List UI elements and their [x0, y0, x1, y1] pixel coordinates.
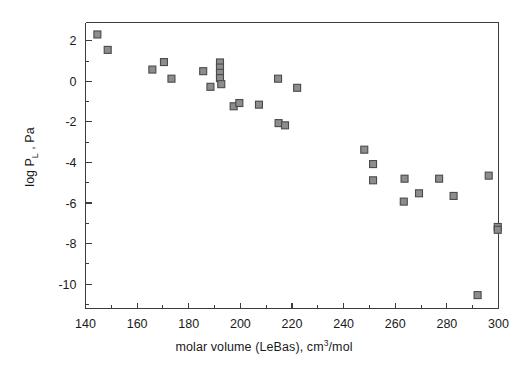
data-point-marker	[415, 190, 422, 197]
data-point-marker	[370, 177, 377, 184]
y-tick-label: 2	[70, 34, 77, 48]
plot-canvas: 14016018020022024026028030020-2-4-6-8-10	[0, 0, 528, 374]
data-point-marker	[370, 161, 377, 168]
x-tick-label: 220	[282, 317, 303, 331]
data-point-marker	[494, 226, 501, 233]
data-point-marker	[104, 46, 111, 53]
data-point-marker	[255, 101, 262, 108]
x-tick-label: 300	[488, 317, 509, 331]
data-point-marker	[294, 84, 301, 91]
x-tick-label: 160	[127, 317, 148, 331]
data-point-marker	[282, 122, 289, 129]
x-axis-label: molar volume (LeBas), cm3/mol	[0, 340, 528, 354]
data-point-marker	[207, 83, 214, 90]
x-tick-label: 240	[333, 317, 354, 331]
y-tick-label: -10	[58, 278, 76, 292]
x-tick-label: 260	[385, 317, 406, 331]
ticks-group	[86, 41, 499, 309]
data-point-marker	[236, 100, 243, 107]
data-point-marker	[450, 192, 457, 199]
data-point-marker	[200, 68, 207, 75]
y-axis-label-post: , Pa	[23, 127, 37, 153]
x-axis-label-pre: molar volume (LeBas), cm	[175, 340, 323, 354]
y-tick-label: -6	[65, 197, 76, 211]
y-axis-label-subscript: L	[30, 153, 40, 158]
data-point-marker	[168, 75, 175, 82]
data-point-marker	[400, 198, 407, 205]
x-tick-label: 140	[75, 317, 96, 331]
y-axis-label-pre: log P	[23, 158, 37, 187]
data-point-marker	[218, 81, 225, 88]
x-tick-label: 180	[178, 317, 199, 331]
x-tick-label: 280	[436, 317, 457, 331]
scatter-plot-figure: 14016018020022024026028030020-2-4-6-8-10…	[0, 0, 528, 374]
data-point-marker	[401, 175, 408, 182]
axes-group	[86, 23, 499, 309]
x-tick-label: 200	[230, 317, 251, 331]
x-axis-label-post: /mol	[329, 340, 353, 354]
data-point-marker	[361, 146, 368, 153]
y-tick-label: -8	[65, 237, 76, 251]
data-markers-group	[94, 31, 501, 299]
data-point-marker	[275, 75, 282, 82]
y-axis-label: log PL , Pa	[23, 92, 37, 222]
data-point-marker	[149, 66, 156, 73]
y-tick-label: -2	[65, 115, 76, 129]
y-tick-label: -4	[65, 156, 76, 170]
y-tick-label: 0	[70, 75, 77, 89]
data-point-marker	[474, 292, 481, 299]
data-point-marker	[94, 31, 101, 38]
data-point-marker	[160, 59, 167, 66]
data-point-marker	[436, 175, 443, 182]
data-point-marker	[485, 172, 492, 179]
